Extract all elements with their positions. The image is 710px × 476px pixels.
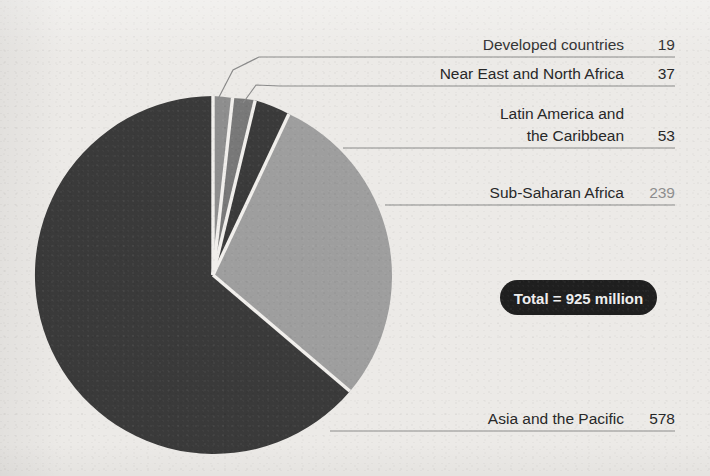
callout-developed-countries[interactable]: Developed countries 19 — [483, 36, 675, 53]
callout-label-near-east-and-north-africa: Near East and North Africa — [440, 65, 625, 82]
callout-label-latin-america-and-the-caribbean-line1: Latin America and — [500, 105, 624, 122]
callout-sub-saharan-africa[interactable]: Sub-Saharan Africa 239 — [490, 184, 675, 201]
pie-chart-figure: Developed countries 19 Near East and Nor… — [0, 0, 710, 476]
callout-value-near-east-and-north-africa: 37 — [658, 65, 675, 82]
callout-value-latin-america-and-the-caribbean: 53 — [658, 127, 675, 144]
callout-asia-and-the-pacific[interactable]: Asia and the Pacific 578 — [488, 410, 675, 427]
callout-label-developed-countries: Developed countries — [483, 36, 625, 53]
callout-value-asia-and-the-pacific: 578 — [649, 410, 675, 427]
leader-line-near-east-and-north-africa — [243, 85, 675, 103]
total-badge: Total = 925 million — [500, 280, 657, 315]
callout-label-latin-america-and-the-caribbean-line2: the Caribbean — [527, 127, 624, 144]
callout-labels: Developed countries 19 Near East and Nor… — [440, 36, 675, 427]
callout-label-sub-saharan-africa: Sub-Saharan Africa — [490, 184, 625, 201]
callout-near-east-and-north-africa[interactable]: Near East and North Africa 37 — [440, 65, 675, 82]
pie-chart-svg: Developed countries 19 Near East and Nor… — [0, 0, 710, 476]
callout-label-asia-and-the-pacific: Asia and the Pacific — [488, 410, 624, 427]
callout-latin-america-and-the-caribbean[interactable]: Latin America and the Caribbean 53 — [500, 105, 675, 144]
callout-value-sub-saharan-africa: 239 — [649, 184, 675, 201]
callout-value-developed-countries: 19 — [658, 36, 675, 53]
pie-slices — [35, 96, 392, 454]
total-badge-label: Total = 925 million — [514, 290, 643, 307]
